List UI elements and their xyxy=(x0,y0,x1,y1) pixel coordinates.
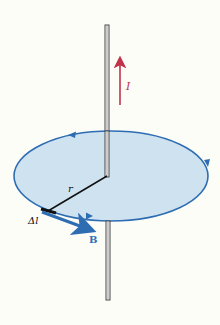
wire-lower xyxy=(106,221,110,300)
label-current: I xyxy=(125,80,131,93)
wire-through-disk xyxy=(105,131,109,177)
amperian-loop xyxy=(14,131,208,221)
ampere-law-diagram: I r Δl B xyxy=(0,0,220,325)
diagram-canvas: I r Δl B xyxy=(0,0,220,325)
label-field-b: B xyxy=(89,234,97,245)
label-delta-l: Δl xyxy=(27,215,38,226)
